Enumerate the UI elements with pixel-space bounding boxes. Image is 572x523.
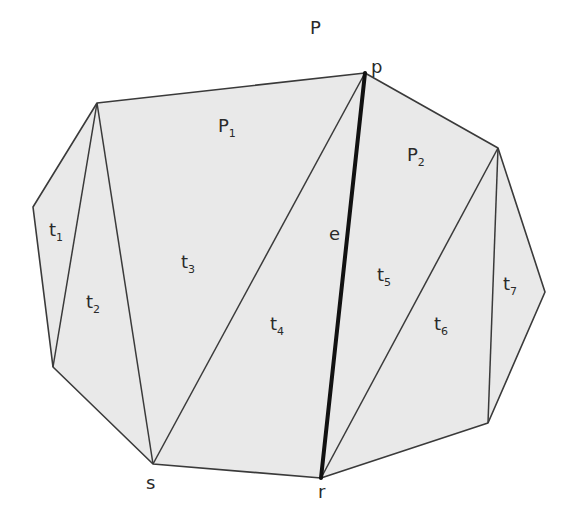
label-edge-e: e xyxy=(329,223,340,244)
polygon-P xyxy=(33,73,545,478)
label-vertex-s: s xyxy=(146,472,155,493)
label-P: P xyxy=(310,17,321,38)
triangulation-diagram: P p P1 P2 e s r t1 t2 t3 t4 t5 t6 t7 xyxy=(0,0,572,523)
label-vertex-r: r xyxy=(318,481,326,502)
label-vertex-p: p xyxy=(371,56,382,77)
